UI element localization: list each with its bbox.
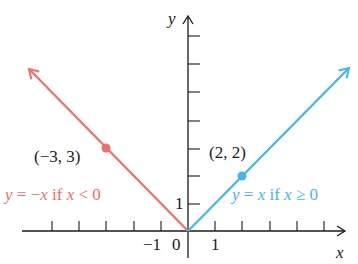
origin-label: 0 (172, 235, 181, 254)
point-neg3-3 (102, 144, 111, 153)
x-tick-label-1: 1 (211, 235, 220, 254)
absolute-value-chart: y x −1 0 1 1 (−3, 3) (2, 2) y = −x if x … (0, 0, 358, 264)
left-branch-equation: y = −x if x < 0 (3, 185, 101, 204)
point-2-2 (238, 172, 247, 181)
x-tick-label-neg1: −1 (143, 235, 161, 254)
point-label-left: (−3, 3) (34, 147, 80, 166)
x-axis-label: x (335, 243, 344, 262)
y-axis-label: y (166, 9, 176, 28)
y-ticks (188, 36, 200, 204)
right-branch-equation: y = x if x ≥ 0 (230, 185, 318, 204)
point-label-right: (2, 2) (209, 143, 246, 162)
y-tick-label-1: 1 (175, 194, 184, 213)
